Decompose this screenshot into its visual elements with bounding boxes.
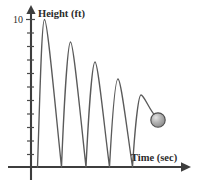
y-tick-label-10: 10	[13, 14, 23, 25]
bouncing-ball-chart: Height (ft) Time (sec) 10	[0, 0, 197, 188]
chart-canvas: Height (ft) Time (sec) 10	[0, 0, 197, 188]
x-axis-label: Time (sec)	[131, 152, 178, 164]
bounce-trajectory-curve	[38, 20, 156, 168]
y-axis-label: Height (ft)	[38, 8, 85, 20]
ball-icon	[151, 113, 165, 127]
right-arrow-icon	[181, 162, 191, 172]
up-arrow-icon	[26, 5, 35, 14]
